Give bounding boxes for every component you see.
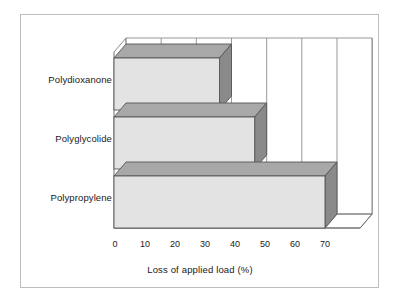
xtick-label-10: 10 [133, 239, 157, 249]
bar-polydioxanone [114, 44, 232, 110]
bar-polypropylene [114, 162, 337, 228]
bar-top-face-polypropylene [114, 162, 337, 176]
xtick-70 [360, 214, 372, 228]
xtick-label-50: 50 [253, 239, 277, 249]
chart-figure: Polydioxanone Polyglycolide Polypropylen… [0, 0, 400, 304]
xtick-label-0: 0 [103, 239, 127, 249]
bar-front-face-polydioxanone [114, 58, 220, 110]
bar-polyglycolide [114, 103, 267, 169]
category-label-polydioxanone: Polydioxanone [48, 74, 112, 85]
x-axis-title: Loss of applied load (%) [0, 264, 400, 275]
xtick-label-60: 60 [283, 239, 307, 249]
category-label-polyglycolide: Polyglycolide [55, 133, 112, 144]
bar-top-face-polyglycolide [114, 103, 267, 117]
bar-top-face-polydioxanone [114, 44, 232, 58]
bar-front-face-polypropylene [114, 176, 325, 228]
bar-chart-3d [0, 0, 400, 304]
xtick-label-20: 20 [163, 239, 187, 249]
bar-front-face-polyglycolide [114, 117, 255, 169]
xtick-label-70: 70 [313, 239, 337, 249]
xtick-label-30: 30 [193, 239, 217, 249]
category-label-polypropylene: Polypropylene [50, 192, 112, 203]
xtick-label-40: 40 [223, 239, 247, 249]
